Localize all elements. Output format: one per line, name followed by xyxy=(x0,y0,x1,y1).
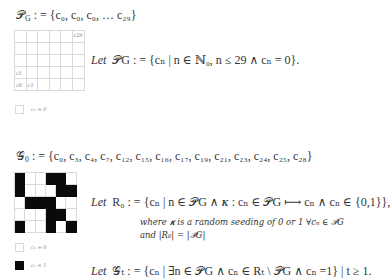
grid-cell xyxy=(15,43,27,55)
grid-cell-on xyxy=(56,209,66,221)
grid-cell-on xyxy=(66,185,76,197)
grid-cell xyxy=(27,55,39,67)
grid-cell xyxy=(50,79,62,91)
cell-label: c1 xyxy=(28,82,34,88)
let-keyword: Let xyxy=(91,195,106,209)
grid-cell xyxy=(50,43,62,55)
cell-label: c1 xyxy=(16,70,22,76)
grid-cell xyxy=(61,55,73,67)
grid-cell-on xyxy=(66,221,76,233)
g0-set-definition: 𝒢0 : = {c₀, c₃, c₄, c₇, c₁₂, c₁₅, c₁₆, c… xyxy=(16,149,313,164)
r0-statement: Let R₀ : = {cₙ | n ∈ 𝒫G ∧ 𝜿 : cₙ ∈ 𝒫G ⟼ … xyxy=(91,195,390,210)
grid-cell xyxy=(61,43,73,55)
grid-cell xyxy=(50,55,62,67)
grid-cell-off xyxy=(56,197,66,209)
grid-cell-on xyxy=(25,197,35,209)
pg-symbol: 𝒫 xyxy=(16,8,25,22)
grid-cell: c0 xyxy=(15,79,27,91)
grid-cell xyxy=(61,79,73,91)
empty-grid-pg: c29c1c0c1 xyxy=(14,30,85,91)
g0-set-body: : = {c₀, c₃, c₄, c₇, c₁₂, c₁₅, c₁₆, c₁₇,… xyxy=(29,149,313,163)
legend-black-label: cₙ = 1 xyxy=(31,262,46,268)
grid-cell xyxy=(73,67,85,79)
let-keyword: Let xyxy=(91,264,106,278)
cell-label: c29 xyxy=(73,32,82,38)
r0-statement-body: R₀ : = {cₙ | n ∈ 𝒫G ∧ 𝜿 : cₙ ∈ 𝒫G ⟼ cₙ ∧… xyxy=(112,195,390,209)
grid-cell-on xyxy=(15,185,25,197)
grid-cell-off xyxy=(25,173,35,185)
seeded-grid-g0 xyxy=(14,172,77,233)
grid-cell xyxy=(27,31,39,43)
gt-statement-body: 𝒢ₜ : = {cₙ | ∃n ∈ 𝒫G ∧ cₙ ∈ Rₜ \ 𝒫G ∧ cₙ… xyxy=(112,264,371,278)
grid-cell-off xyxy=(25,185,35,197)
pg-statement-body: 𝒫G : = {cₙ | n ∈ ℕ₀, n ≤ 29 ∧ cₙ = 0}. xyxy=(112,53,299,67)
grid-cell-off xyxy=(46,185,56,197)
grid-cell-off xyxy=(36,173,46,185)
grid-cell-off xyxy=(15,209,25,221)
grid-cell: c1 xyxy=(15,67,27,79)
grid-cell xyxy=(61,31,73,43)
grid-cell-on xyxy=(56,173,66,185)
grid-cell-on xyxy=(36,197,46,209)
where-clause: where 𝜿 is a random seeding of 0 or 1 ∀c… xyxy=(140,217,344,228)
legend-white-label: cₙ = 0 xyxy=(31,244,46,250)
legend-black-swatch xyxy=(15,261,24,270)
grid-cell-off xyxy=(36,209,46,221)
grid-cell xyxy=(73,79,85,91)
grid-cell-off xyxy=(15,197,25,209)
grid-cell xyxy=(38,31,50,43)
grid-cell xyxy=(38,55,50,67)
cell-label: c0 xyxy=(16,82,22,88)
grid-cell-off xyxy=(36,185,46,197)
grid-cell xyxy=(61,67,73,79)
grid-cell xyxy=(38,43,50,55)
pg-set-body: : = {c₀, c₀, c₀, … c₂₉} xyxy=(31,8,137,22)
grid-cell xyxy=(73,55,85,67)
gt-statement: Let 𝒢ₜ : = {cₙ | ∃n ∈ 𝒫G ∧ cₙ ∈ Rₜ \ 𝒫G … xyxy=(91,264,371,279)
grid-cell-off xyxy=(66,197,76,209)
grid-cell xyxy=(38,79,50,91)
grid-cell-on xyxy=(46,197,56,209)
legend-white-swatch xyxy=(15,243,24,252)
g-symbol: 𝒢 xyxy=(16,149,25,163)
let-keyword: Let xyxy=(91,53,106,67)
grid-cell-off xyxy=(25,209,35,221)
grid-cell-on xyxy=(46,209,56,221)
grid-cell-on xyxy=(15,221,25,233)
grid-cell-off xyxy=(36,221,46,233)
grid-cell: c1 xyxy=(27,79,39,91)
grid-cell xyxy=(50,67,62,79)
grid-cell xyxy=(15,55,27,67)
grid-cell xyxy=(73,43,85,55)
legend-white-swatch xyxy=(15,105,24,114)
legend-white-label: cₙ = 0 xyxy=(31,106,46,112)
pg-statement: Let 𝒫G : = {cₙ | n ∈ ℕ₀, n ≤ 29 ∧ cₙ = 0… xyxy=(91,53,299,68)
grid-cell-off xyxy=(56,221,66,233)
grid-cell-on xyxy=(46,221,56,233)
grid-cell-off xyxy=(66,173,76,185)
grid-cell xyxy=(27,67,39,79)
pg-set-definition: 𝒫G : = {c₀, c₀, c₀, … c₂₉} xyxy=(16,8,136,23)
grid-cell xyxy=(50,31,62,43)
grid-cell xyxy=(15,31,27,43)
grid-cell-on xyxy=(15,173,25,185)
grid-cell-off xyxy=(25,221,35,233)
grid-cell: c29 xyxy=(73,31,85,43)
grid-cell-on xyxy=(46,173,56,185)
grid-cell xyxy=(38,67,50,79)
and-clause: and |R₀| = |𝒫G| xyxy=(140,230,205,241)
grid-cell-on xyxy=(56,185,66,197)
grid-cell-off xyxy=(66,209,76,221)
grid-cell xyxy=(27,43,39,55)
